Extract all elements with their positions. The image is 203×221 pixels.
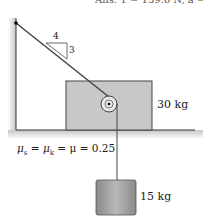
hanging-mass-label: 15 kg xyxy=(140,190,171,203)
slope-run: 4 xyxy=(53,31,59,41)
friction-label: μs = μk = μ = 0.25 xyxy=(17,142,115,157)
slope-triangle xyxy=(46,43,67,59)
floor xyxy=(8,130,203,139)
slope-rise: 3 xyxy=(69,45,75,55)
mass-15kg xyxy=(96,180,136,215)
block-mass-label: 30 kg xyxy=(157,98,188,111)
cable xyxy=(16,23,109,97)
wall xyxy=(8,18,16,130)
